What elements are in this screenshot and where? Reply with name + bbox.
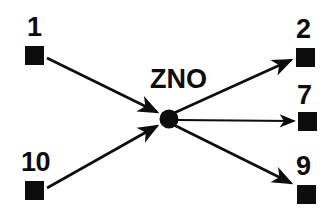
node-label-1: 1 xyxy=(27,14,42,41)
edge-center-to-node9 xyxy=(174,125,291,183)
node-label-10: 10 xyxy=(21,149,50,176)
diagram-canvas: ZNO 1 10 2 7 9 xyxy=(0,0,331,212)
node-label-9: 9 xyxy=(296,153,311,180)
edge-center-to-node7 xyxy=(178,120,294,121)
edge-node10-to-center xyxy=(47,126,157,188)
node-label-7: 7 xyxy=(297,82,312,109)
node-label-2: 2 xyxy=(296,16,311,43)
node-circle-center[interactable] xyxy=(160,110,179,129)
edge-node1-to-center xyxy=(47,58,157,112)
node-square-7[interactable] xyxy=(298,112,317,131)
node-square-9[interactable] xyxy=(297,185,316,204)
diagram-graphics xyxy=(0,0,331,212)
node-square-10[interactable] xyxy=(25,181,44,200)
node-square-1[interactable] xyxy=(25,46,44,65)
center-node-label: ZNO xyxy=(150,66,207,93)
node-square-2[interactable] xyxy=(296,48,315,67)
